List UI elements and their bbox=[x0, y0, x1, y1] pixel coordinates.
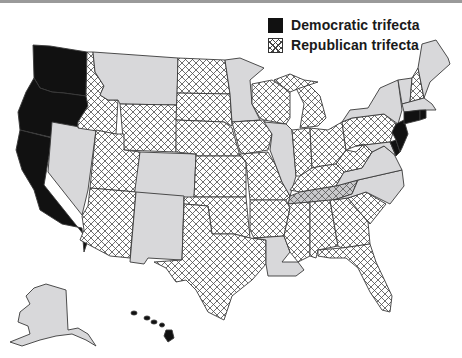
state-maine[interactable] bbox=[418, 40, 450, 98]
republican-swatch-icon bbox=[268, 38, 283, 53]
map-legend: Democratic trifecta Republican trifecta bbox=[268, 15, 420, 55]
state-montana[interactable] bbox=[93, 52, 178, 105]
state-wyoming[interactable] bbox=[120, 104, 177, 152]
state-north-dakota[interactable] bbox=[177, 58, 230, 94]
legend-item-democratic: Democratic trifecta bbox=[268, 15, 420, 35]
state-alaska[interactable] bbox=[10, 284, 96, 346]
legend-label-republican: Republican trifecta bbox=[291, 37, 419, 53]
state-arkansas[interactable] bbox=[250, 200, 290, 238]
state-kansas[interactable] bbox=[194, 156, 246, 197]
democratic-swatch-icon bbox=[268, 18, 283, 33]
state-michigan[interactable] bbox=[296, 82, 326, 128]
state-hawaii[interactable] bbox=[131, 311, 174, 342]
state-connecticut[interactable] bbox=[404, 110, 420, 124]
state-florida[interactable] bbox=[318, 244, 392, 312]
state-indiana[interactable] bbox=[292, 128, 312, 176]
state-rhode-island[interactable] bbox=[420, 110, 426, 120]
state-arizona[interactable] bbox=[80, 188, 136, 258]
legend-label-democratic: Democratic trifecta bbox=[291, 17, 420, 33]
legend-item-republican: Republican trifecta bbox=[268, 35, 420, 55]
state-new-mexico[interactable] bbox=[130, 192, 184, 264]
